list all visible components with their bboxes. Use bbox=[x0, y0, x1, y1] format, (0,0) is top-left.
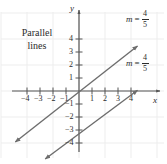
slope-fraction-lower: 4 5 bbox=[142, 54, 149, 73]
slope-fraction-upper: 4 5 bbox=[142, 10, 149, 29]
parallel-lines-annotation: Parallel lines bbox=[13, 27, 61, 52]
x-tick-label-2: 2 bbox=[103, 95, 107, 103]
y-tick-label--4: −4 bbox=[65, 139, 74, 147]
y-tick-label-3: 3 bbox=[69, 48, 73, 56]
x-axis-label: x bbox=[153, 96, 157, 105]
y-axis-label: y bbox=[70, 4, 74, 13]
slope-variable-upper: m bbox=[126, 15, 133, 24]
x-tick-label-3: 3 bbox=[116, 95, 120, 103]
y-tick-label-4: 4 bbox=[69, 35, 73, 43]
x-tick-label--4: −4 bbox=[21, 95, 30, 103]
y-tick-label--2: −2 bbox=[65, 113, 74, 121]
annotation-line-1: Parallel bbox=[13, 27, 61, 40]
slope-equals-upper: = bbox=[135, 15, 140, 24]
slope-numerator-lower: 4 bbox=[142, 54, 148, 62]
slope-label-upper-line: m = 4 5 bbox=[126, 10, 149, 29]
slope-label-lower-line: m = 4 5 bbox=[126, 54, 149, 73]
slope-denominator-lower: 5 bbox=[142, 65, 148, 73]
x-tick-label-4: 4 bbox=[129, 95, 133, 103]
slope-denominator-upper: 5 bbox=[142, 21, 148, 29]
annotation-line-2: lines bbox=[13, 40, 61, 53]
y-tick-label--1: −1 bbox=[65, 100, 74, 108]
y-tick-label-1: 1 bbox=[69, 74, 73, 82]
y-tick-label--3: −3 bbox=[65, 126, 74, 134]
x-tick-label-1: 1 bbox=[90, 95, 94, 103]
slope-variable-lower: m bbox=[126, 59, 133, 68]
x-tick-label--3: −3 bbox=[34, 95, 43, 103]
slope-equals-lower: = bbox=[135, 59, 140, 68]
slope-numerator-upper: 4 bbox=[142, 10, 148, 18]
graph-figure: −4 −3 −2 −1 1 2 3 4 4 3 2 1 −1 −2 −3 −4 … bbox=[0, 0, 167, 164]
y-tick-label-2: 2 bbox=[69, 61, 73, 69]
x-tick-label--2: −2 bbox=[47, 95, 56, 103]
